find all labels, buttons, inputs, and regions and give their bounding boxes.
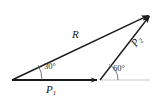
label-resultant-r: R — [72, 29, 79, 40]
label-force-p1-base: P — [46, 83, 53, 95]
label-angle-30: 30° — [44, 62, 56, 71]
vector-diagram: R P1 P2 30° 60° — [0, 0, 162, 99]
label-force-p1: P1 — [46, 84, 56, 95]
vector-r — [12, 15, 149, 80]
label-angle-60: 60° — [113, 64, 125, 73]
vector-diagram-canvas — [0, 0, 162, 99]
label-force-p1-subscript: 1 — [53, 89, 56, 96]
